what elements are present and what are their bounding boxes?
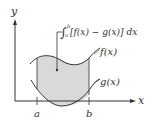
integral-expression: [f(x) − g(x)] dx (70, 27, 137, 37)
x-axis-arrow-icon (130, 99, 136, 103)
area-between-curves-diagram: y x a b f(x) g(x) ∫ b a [f(x) − g(x)] dx (0, 0, 157, 124)
integral-lower-limit: a (65, 32, 68, 38)
tick-a-label: a (34, 108, 40, 119)
y-axis-arrow-icon (13, 19, 17, 25)
annotation-dot (56, 69, 58, 71)
x-axis-label: x (138, 94, 145, 107)
curve-f-label: f(x) (99, 46, 117, 57)
y-axis-label: y (10, 5, 18, 18)
tick-b-label: b (86, 108, 92, 119)
curve-g-label: g(x) (100, 76, 120, 87)
